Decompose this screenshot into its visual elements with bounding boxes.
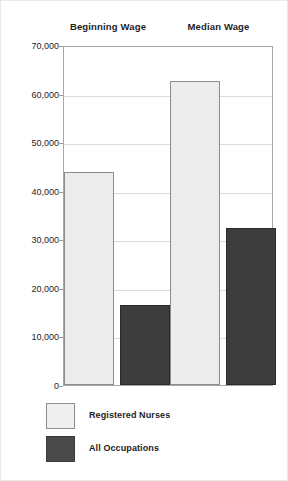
bar <box>120 305 170 385</box>
legend-swatch <box>46 436 75 462</box>
y-axis: 70,00060,00050,00040,00030,00020,00010,0… <box>1 46 59 386</box>
y-axis-tick-mark <box>58 386 63 387</box>
bar <box>170 81 220 385</box>
wage-comparison-chart: Beginning Wage Median Wage 70,00060,0005… <box>0 0 288 481</box>
legend-label: Registered Nurses <box>89 410 170 420</box>
legend-label: All Occupations <box>89 443 159 453</box>
group-header-median-wage: Median Wage <box>166 21 271 32</box>
legend-swatch <box>46 403 75 429</box>
y-axis-tick-label: 10,000 <box>3 332 59 342</box>
group-header-beginning-wage: Beginning Wage <box>53 21 163 32</box>
y-axis-tick-label: 20,000 <box>3 284 59 294</box>
chart-legend: Registered NursesAll Occupations <box>1 401 288 467</box>
bar <box>226 228 276 385</box>
y-axis-tick-label: 70,000 <box>3 41 59 51</box>
bar <box>64 172 114 385</box>
legend-item: Registered Nurses <box>1 401 288 434</box>
y-axis-tick-label: 0 <box>3 381 59 391</box>
gridline <box>64 144 272 145</box>
gridline <box>64 96 272 97</box>
y-axis-tick-label: 50,000 <box>3 138 59 148</box>
plot-area <box>63 46 273 386</box>
legend-item: All Occupations <box>1 434 288 467</box>
y-axis-tick-label: 60,000 <box>3 90 59 100</box>
y-axis-tick-label: 40,000 <box>3 187 59 197</box>
y-axis-tick-label: 30,000 <box>3 235 59 245</box>
